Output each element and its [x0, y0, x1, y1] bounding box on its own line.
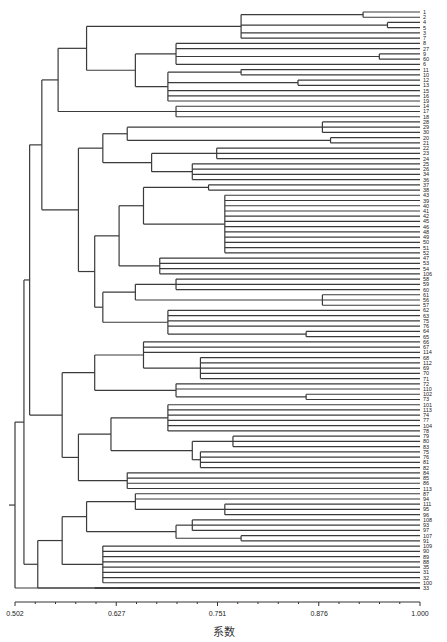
leaf-labels: 1245378279606111012131516191417182829302… — [423, 9, 432, 591]
x-tick-label: 1.000 — [411, 610, 429, 617]
dendrogram-branches — [9, 12, 420, 588]
x-tick-label: 0.751 — [209, 610, 227, 617]
x-tick-label: 0.876 — [310, 610, 328, 617]
dendrogram-chart: 1245378279606111012131516191417182829302… — [0, 0, 447, 642]
x-tick-label: 0.627 — [108, 610, 126, 617]
leaf-label: 33 — [423, 585, 429, 591]
x-tick-label: 0.502 — [6, 610, 24, 617]
dendrogram-svg: 1245378279606111012131516191417182829302… — [0, 0, 447, 642]
x-axis: 0.5020.6270.7510.8761.000 — [6, 602, 429, 617]
x-axis-title: 系数 — [0, 623, 447, 639]
